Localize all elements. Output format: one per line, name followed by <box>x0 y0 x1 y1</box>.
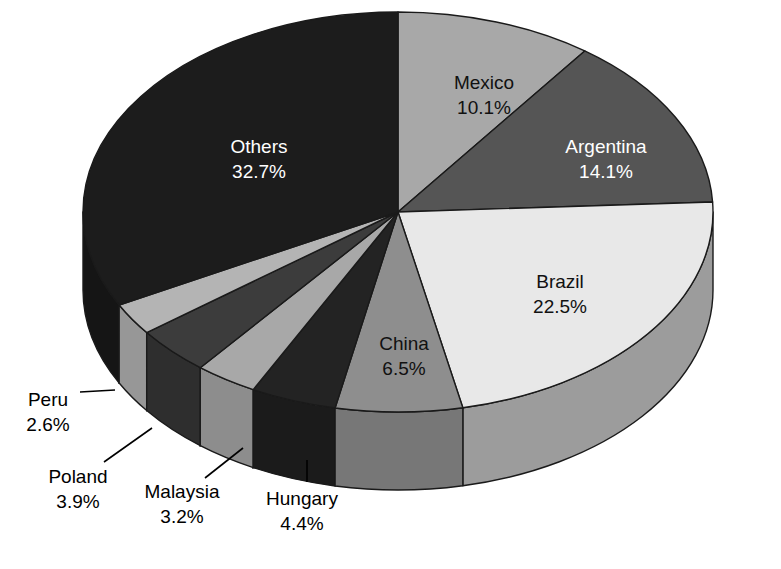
slice-label-hungary: Hungary4.4% <box>266 488 338 534</box>
pie-chart-svg: Mexico 10.1%Argentina 14.1%Brazil 22.5%C… <box>0 0 781 569</box>
slice-label-value: 3.9% <box>56 491 99 512</box>
slice-label-name: Peru <box>28 389 68 410</box>
slice-label-value: 2.6% <box>26 414 69 435</box>
slice-label-name: Argentina <box>565 136 647 157</box>
slice-label-name: Others <box>230 136 287 157</box>
slice-label-value: 6.5% <box>382 358 425 379</box>
slice-label-value: 3.2% <box>160 506 203 527</box>
slice-label-value: 10.1% <box>457 97 511 118</box>
slice-label-malaysia: Malaysia3.2% <box>145 481 220 527</box>
slice-label-value: 4.4% <box>280 513 323 534</box>
slice-label-peru: Peru2.6% <box>26 389 69 435</box>
slice-label-name: Mexico <box>454 72 514 93</box>
slice-label-name: Brazil <box>536 271 584 292</box>
slice-label-value: 14.1% <box>579 161 633 182</box>
leader-line-poland <box>104 428 152 462</box>
slice-label-name: China <box>379 333 429 354</box>
slice-label-name: Malaysia <box>145 481 220 502</box>
slice-label-poland: Poland3.9% <box>48 466 107 512</box>
pie-chart-figure: Mexico 10.1%Argentina 14.1%Brazil 22.5%C… <box>0 0 781 569</box>
slice-label-name: Hungary <box>266 488 338 509</box>
slice-label-value: 22.5% <box>533 296 587 317</box>
pie-side-wall-china <box>335 408 463 490</box>
slice-label-name: Poland <box>48 466 107 487</box>
leader-line-peru <box>80 390 115 392</box>
slice-label-value: 32.7% <box>232 161 286 182</box>
